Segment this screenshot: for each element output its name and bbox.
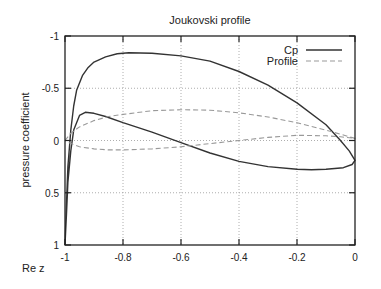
y-tick-label: -1 xyxy=(50,31,59,42)
x-axis-label: Re z xyxy=(22,262,45,274)
y-axis-label: pressure coefficient xyxy=(19,92,31,187)
x-tick-label: -1 xyxy=(61,252,70,263)
series-cp xyxy=(65,53,355,245)
series-group xyxy=(65,53,355,245)
grid-lines xyxy=(65,36,355,245)
y-tick-label: -0.5 xyxy=(42,83,60,94)
y-tick-labels: -1-0.500.51 xyxy=(42,31,60,251)
x-tick-label: -0.4 xyxy=(230,252,248,263)
chart-title: Joukovski profile xyxy=(169,14,250,26)
x-tick-label: -0.8 xyxy=(114,252,132,263)
y-tick-label: 0 xyxy=(53,136,59,147)
x-tick-label: -0.6 xyxy=(172,252,190,263)
y-tick-label: 1 xyxy=(53,240,59,251)
chart: -1-0.8-0.6-0.4-0.20 -1-0.500.51 Joukovsk… xyxy=(0,0,381,289)
x-tick-labels: -1-0.8-0.6-0.4-0.20 xyxy=(61,252,359,263)
legend-label-profile: Profile xyxy=(267,55,298,67)
series-profile xyxy=(65,110,355,150)
x-tick-label: -0.2 xyxy=(288,252,306,263)
y-tick-label: 0.5 xyxy=(45,188,59,199)
x-tick-label: 0 xyxy=(352,252,358,263)
legend: CpProfile xyxy=(267,44,342,67)
